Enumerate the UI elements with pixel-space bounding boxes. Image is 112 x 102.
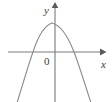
x-axis-arrowhead: [100, 49, 107, 56]
math-figure-container: y x 0: [0, 0, 112, 102]
coordinate-plot-svg: y x 0: [0, 0, 112, 102]
y-axis-arrowhead: [52, 2, 59, 8]
origin-label: 0: [44, 55, 50, 67]
y-axis-label: y: [43, 4, 49, 16]
parabola-curve: [17, 23, 91, 102]
x-axis-label: x: [100, 58, 106, 70]
